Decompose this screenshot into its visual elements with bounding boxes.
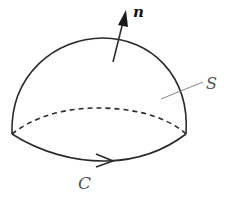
boundary-curve-hidden (12, 108, 186, 134)
normal-label: n (133, 3, 144, 21)
surface-label: S (206, 74, 217, 93)
normal-vector-shaft (113, 22, 123, 62)
normal-vector-arrowhead-icon (118, 10, 128, 27)
boundary-curve-c (12, 134, 186, 161)
curve-label: C (78, 173, 91, 193)
surface-diagram: n S C (0, 0, 226, 219)
